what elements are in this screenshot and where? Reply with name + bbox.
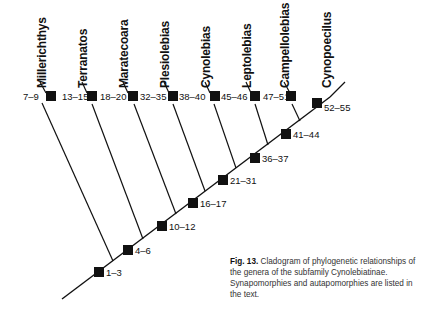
node-plesiolebias xyxy=(168,91,178,101)
character-label: 16–17 xyxy=(200,198,226,209)
cladogram-figure: Millerichthys Terranatos Maratecoara Ple… xyxy=(0,0,427,316)
taxon-label: Campellolebias xyxy=(278,2,292,88)
character-label: 1–3 xyxy=(106,267,122,278)
branch-plesiolebias xyxy=(173,104,205,191)
caption-text: Cladogram of phylogenetic relationships … xyxy=(230,257,415,299)
node-leptolebias xyxy=(250,91,260,101)
branch-terranatos xyxy=(92,104,143,239)
node-cynopoecilus xyxy=(312,98,322,108)
taxon-label: Leptolebias xyxy=(240,23,254,88)
node-1-3 xyxy=(94,267,104,277)
taxon-label: Cynolebias xyxy=(199,25,213,88)
character-label: 21–31 xyxy=(230,175,256,186)
figure-caption: Fig. 13. Cladogram of phylogenetic relat… xyxy=(230,256,420,300)
branch-cynolebias xyxy=(214,104,236,168)
branch-millerichthys xyxy=(42,103,113,261)
character-label: 52–55 xyxy=(324,102,350,113)
character-label: 4–6 xyxy=(135,245,151,256)
node-10-12 xyxy=(157,221,167,231)
node-millerichthys xyxy=(46,91,56,101)
character-label: 38–40 xyxy=(179,91,205,102)
character-label: 47–51 xyxy=(263,91,289,102)
node-maratecoara xyxy=(128,91,138,101)
node-terranatos xyxy=(87,91,97,101)
caption-label: Fig. 13. xyxy=(230,257,258,266)
character-label: 10–12 xyxy=(169,221,195,232)
taxon-label: Terranatos xyxy=(76,28,90,88)
character-label: 45–46 xyxy=(221,91,247,102)
node-cynolebias xyxy=(210,91,220,101)
branch-leptolebias xyxy=(255,104,268,145)
character-label: 18–20 xyxy=(100,91,126,102)
node-16-17 xyxy=(188,198,198,208)
node-21-31 xyxy=(218,175,228,185)
branch-campellolebias xyxy=(292,104,300,121)
node-36-37 xyxy=(250,153,260,163)
character-label: 13–15 xyxy=(62,91,88,102)
branch-maratecoara xyxy=(134,104,176,214)
character-label: 7–9 xyxy=(23,91,39,102)
taxon-label: Maratecoara xyxy=(117,19,131,88)
character-label: 41–44 xyxy=(293,129,319,140)
node-41-44 xyxy=(281,129,291,139)
taxon-label: Cynopoecilus xyxy=(320,11,334,88)
taxon-label: Millerichthys xyxy=(35,17,49,88)
taxon-label: Plesiolebias xyxy=(158,21,172,88)
node-4-6 xyxy=(123,245,133,255)
character-label: 36–37 xyxy=(262,153,288,164)
character-label: 32–35 xyxy=(140,91,166,102)
